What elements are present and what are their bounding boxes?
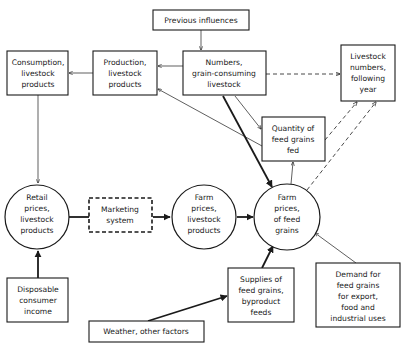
label: income	[24, 307, 52, 316]
label: industrial uses	[330, 314, 385, 323]
edge-quantity-to-livestock-following	[325, 102, 357, 140]
label: livestock	[20, 215, 54, 224]
label: livestock	[207, 80, 241, 89]
label: feed grains,	[238, 286, 283, 295]
label: fed	[287, 146, 299, 155]
label: feed grains	[272, 135, 315, 144]
node-numbers-livestock: Numbers, grain-consuming livestock	[183, 51, 266, 95]
label: byproduct	[242, 297, 281, 306]
label: Marketing	[101, 205, 139, 214]
label: Retail	[26, 193, 47, 202]
label: of feed	[274, 215, 301, 224]
label: Farm	[278, 193, 297, 202]
node-previous-influences: Previous influences	[153, 10, 249, 30]
edge-supplies-to-feed-prices	[262, 246, 273, 268]
node-consumption: Consumption, livestock products	[7, 51, 68, 95]
label: Livestock	[350, 52, 386, 61]
node-livestock-following-year: Livestock numbers, following year	[341, 45, 395, 101]
label: products	[21, 80, 54, 89]
livestock-feed-grain-diagram: Previous influences Consumption, livesto…	[0, 0, 404, 348]
label: Consumption,	[12, 58, 65, 67]
label: products	[187, 226, 220, 235]
label: food and	[341, 303, 375, 312]
label: livestock	[187, 215, 221, 224]
label: prices,	[24, 204, 49, 213]
label: grains	[275, 226, 299, 235]
label: Disposable	[17, 285, 59, 294]
label: Supplies of	[240, 275, 282, 284]
node-retail-prices: Retail prices, livestock products	[5, 185, 69, 249]
node-demand-feed-grains: Demand for feed grains for export, food …	[316, 263, 400, 327]
edge-demand-to-feed-prices	[315, 233, 356, 263]
label: products	[108, 80, 141, 89]
label: livestock	[21, 69, 55, 78]
label: grain-consuming	[192, 69, 256, 78]
node-farm-prices-feed-grains: Farm prices, of feed grains	[254, 184, 320, 250]
node-production: Production, livestock products	[93, 51, 157, 95]
label: Weather, other factors	[103, 327, 189, 336]
node-disposable-income: Disposable consumer income	[7, 278, 68, 322]
label: Demand for	[335, 270, 381, 279]
edge-weather-to-supplies	[148, 296, 227, 321]
label: Quantity of	[272, 124, 315, 133]
label: Production,	[104, 58, 147, 67]
label: products	[20, 226, 53, 235]
label: numbers,	[350, 63, 386, 72]
label: following	[351, 74, 385, 83]
label: feed grains	[337, 281, 380, 290]
label: livestock	[108, 69, 142, 78]
label: Farm	[195, 193, 214, 202]
label: feeds	[251, 308, 272, 317]
label: system	[106, 216, 133, 225]
node-supplies-feed-grains: Supplies of feed grains, byproduct feeds	[228, 268, 294, 322]
node-quantity-fed: Quantity of feed grains fed	[262, 117, 325, 161]
edge-feed-prices-to-quantity	[291, 162, 293, 184]
node-weather: Weather, other factors	[89, 321, 204, 342]
label: Numbers,	[206, 58, 243, 67]
node-marketing-system: Marketing system	[89, 198, 152, 232]
edge-quantity-to-production	[158, 89, 262, 146]
label: prices,	[191, 204, 216, 213]
node-farm-prices-livestock: Farm prices, livestock products	[172, 185, 236, 249]
label: prices,	[274, 204, 299, 213]
label: year	[360, 85, 378, 94]
label: consumer	[19, 296, 57, 305]
label: for export,	[338, 292, 378, 301]
label: Previous influences	[164, 16, 237, 25]
